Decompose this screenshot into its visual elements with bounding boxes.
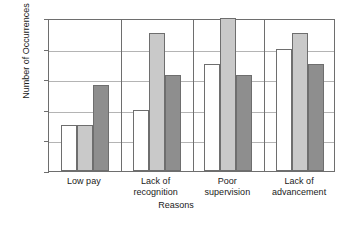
bar	[236, 75, 252, 171]
bar	[308, 64, 324, 171]
bar-chart: Number of Occurrences 0246810 Low payLac…	[0, 0, 352, 226]
y-axis-tick-mark	[44, 172, 49, 173]
group-separator	[121, 20, 122, 171]
plot-area	[48, 19, 335, 172]
bar	[276, 49, 292, 171]
bar	[61, 125, 77, 171]
x-axis-category-label: Lack ofadvancement	[263, 176, 335, 198]
bar	[77, 125, 93, 171]
x-axis-category-label: Low pay	[48, 176, 120, 187]
group-separator	[264, 20, 265, 171]
group-separator	[193, 20, 194, 171]
bar	[165, 75, 181, 171]
bar	[133, 110, 149, 171]
x-axis-title: Reasons	[0, 200, 352, 210]
bar	[220, 18, 236, 171]
x-axis-category-label: Poorsupervision	[192, 176, 264, 198]
bar	[93, 85, 109, 171]
bar	[292, 33, 308, 171]
x-axis-category-label: Lack ofrecognition	[120, 176, 192, 198]
bar	[149, 33, 165, 171]
y-axis-title: Number of Occurrences	[21, 0, 31, 121]
bar	[204, 64, 220, 171]
